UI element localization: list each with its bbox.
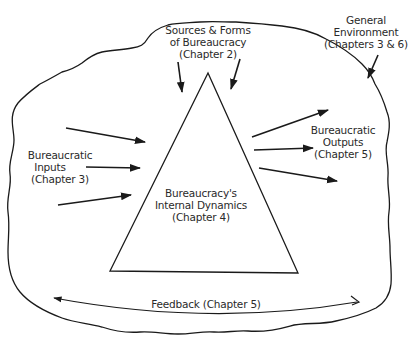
internal-label-line3: (Chapter 4) <box>155 211 247 223</box>
input-arrow-middle <box>86 167 140 168</box>
input-arrow-bottom <box>58 195 131 205</box>
inputs-label: Bureaucratic Inputs (Chapter 3) <box>28 149 92 185</box>
feedback-label-text: Feedback (Chapter 5) <box>151 298 261 310</box>
environment-label-line1: General <box>324 14 408 26</box>
environment-pointer-arrow <box>368 55 378 78</box>
sources-label: Sources & Forms of Bureaucracy (Chapter … <box>165 24 250 60</box>
inputs-label-line2: Inputs <box>8 161 92 173</box>
output-arrow-bottom <box>259 168 337 181</box>
environment-label-line2: Environment <box>324 26 408 38</box>
output-arrow-middle <box>254 148 313 150</box>
environment-label: General Environment (Chapters 3 & 6) <box>324 14 408 50</box>
outputs-label-line1: Bureaucratic <box>311 124 375 136</box>
sources-label-line2: of Bureaucracy <box>165 36 250 48</box>
sources-label-line3: (Chapter 2) <box>165 48 250 60</box>
outputs-label-line2: Outputs <box>311 136 375 148</box>
internal-label-line2: Internal Dynamics <box>155 199 247 211</box>
outputs-label: Bureaucratic Outputs (Chapter 5) <box>311 124 375 160</box>
outputs-label-line3: (Chapter 5) <box>311 148 375 160</box>
feedback-label: Feedback (Chapter 5) <box>151 298 261 310</box>
feedback-arrow-tail <box>351 296 359 305</box>
sources-label-line1: Sources & Forms <box>165 24 250 36</box>
input-arrow-top <box>66 128 145 142</box>
internal-label-line1: Bureaucracy's <box>155 187 247 199</box>
environment-label-line3: (Chapters 3 & 6) <box>324 38 408 50</box>
inputs-label-line3: (Chapter 3) <box>28 173 92 185</box>
sources-arrow-left <box>178 62 182 92</box>
internal-dynamics-label: Bureaucracy's Internal Dynamics (Chapter… <box>155 187 247 223</box>
sources-arrow-right <box>231 59 240 89</box>
bureaucracy-triangle <box>110 73 298 273</box>
inputs-label-line1: Bureaucratic <box>28 149 92 161</box>
